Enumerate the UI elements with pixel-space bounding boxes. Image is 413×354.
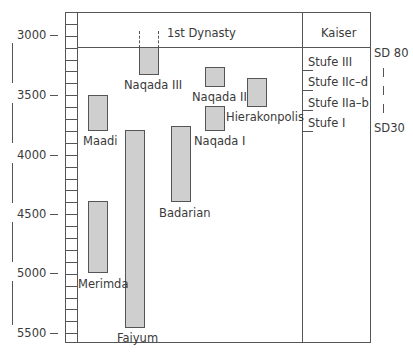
axis-bracket-line xyxy=(12,43,13,83)
stufe-iii: Stufe III xyxy=(308,56,352,68)
bar-naqada-iii xyxy=(139,47,159,75)
tick-mark xyxy=(50,155,58,156)
tick-3000: 3000 xyxy=(17,29,46,41)
label-maadi: Maadi xyxy=(83,135,118,147)
label-naqada-ii: Naqada II xyxy=(192,91,247,103)
bar-badarian xyxy=(171,126,191,202)
sd-line xyxy=(383,68,384,77)
dashed-line xyxy=(158,31,159,48)
tick-4500: 4500 xyxy=(17,208,46,220)
kaiser-divider xyxy=(302,12,303,343)
bar-naqada-i xyxy=(205,106,225,131)
tick-mark xyxy=(50,35,58,36)
tick-5000: 5000 xyxy=(17,267,46,279)
tick-mark xyxy=(50,273,58,274)
axis-bracket-line xyxy=(12,103,13,143)
sd-line xyxy=(383,86,384,95)
stufe-iic-d: Stufe IIc–d xyxy=(308,76,368,88)
tick-5500: 5500 xyxy=(17,327,46,339)
tick-mark xyxy=(50,95,58,96)
axis-bracket-line xyxy=(12,163,13,203)
label-faiyum: Faiyum xyxy=(117,332,158,344)
tick-4000: 4000 xyxy=(17,149,46,161)
dashed-line xyxy=(139,31,140,48)
bar-faiyum xyxy=(125,130,145,328)
bar-naqada-ii xyxy=(205,67,225,87)
bar-merimda xyxy=(88,201,108,273)
stufe-tick xyxy=(303,110,313,111)
stufe-tick xyxy=(303,131,313,132)
tick-mark xyxy=(50,333,58,334)
axis-bracket-line xyxy=(12,222,13,262)
ladder-scale xyxy=(65,12,77,343)
label-badarian: Badarian xyxy=(159,207,211,219)
label-naqada-iii: Naqada III xyxy=(124,79,182,91)
sd-line xyxy=(383,104,384,113)
kaiser-header: Kaiser xyxy=(321,27,356,39)
dynasty-label: 1st Dynasty xyxy=(167,27,236,39)
sd-bottom: SD30 xyxy=(374,122,405,134)
stufe-iia-b: Stufe IIa–b xyxy=(308,97,369,109)
stufe-i: Stufe I xyxy=(308,117,345,129)
label-naqada-i: Naqada I xyxy=(194,135,245,147)
bar-maadi xyxy=(88,95,108,131)
bar-hierakonpolis xyxy=(247,78,267,107)
sd-top: SD 80 xyxy=(374,47,408,59)
dynasty-line xyxy=(77,47,371,48)
stufe-tick xyxy=(303,90,313,91)
tick-mark xyxy=(50,214,58,215)
label-merimda: Merimda xyxy=(78,278,128,290)
axis-bracket-line xyxy=(12,281,13,325)
stufe-tick xyxy=(303,70,313,71)
tick-3500: 3500 xyxy=(17,89,46,101)
label-hierakonpolis: Hierakonpolis xyxy=(226,111,304,123)
